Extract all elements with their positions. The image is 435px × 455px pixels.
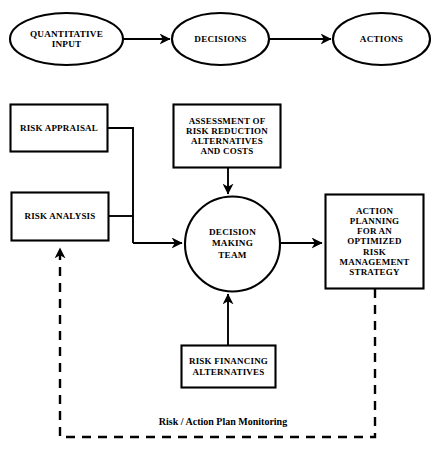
node-assessment (174, 105, 281, 168)
diagram-canvas: QUANTITATIVE INPUT DECISIONS ACTIONS RIS… (0, 0, 435, 455)
node-decisions (172, 13, 269, 65)
node-risk-analysis (12, 193, 109, 241)
node-risk-appraisal (11, 105, 108, 152)
connector-risk-appraisal-to-team (108, 128, 134, 243)
node-quantitative-input (10, 13, 123, 65)
node-action-planning (326, 195, 424, 289)
node-actions (333, 13, 430, 65)
diagram-vector-layer (0, 0, 435, 455)
feedback-loop-label: Risk / Action Plan Monitoring (140, 416, 306, 427)
node-decision-making-team (185, 197, 280, 292)
node-risk-financing (182, 346, 276, 388)
